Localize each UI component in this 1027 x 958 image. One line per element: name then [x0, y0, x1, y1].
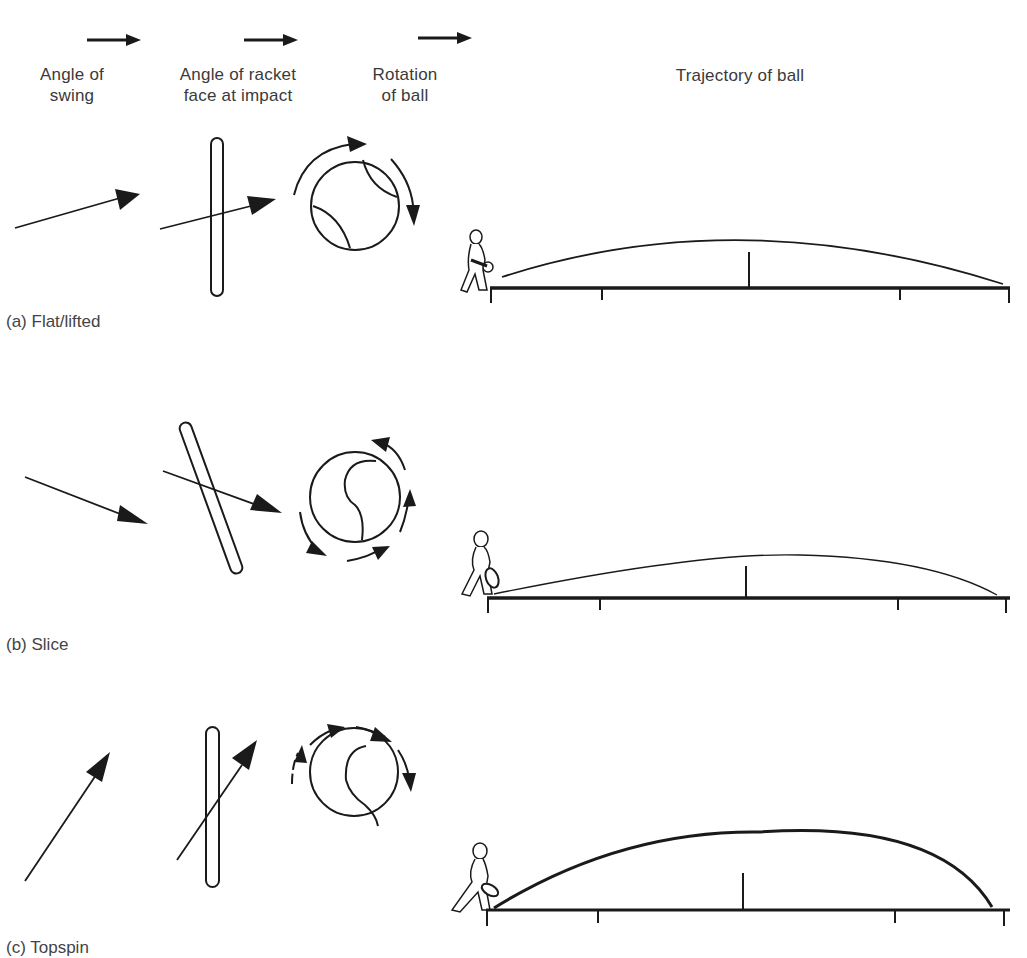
row-b-swing-arrow	[25, 477, 148, 524]
row-a-ball-rotation	[294, 136, 420, 250]
row-a-player-icon	[461, 230, 493, 292]
row-a-trajectory	[502, 240, 1003, 284]
row-b-player-icon	[462, 531, 501, 596]
arrow-right-icon	[244, 34, 298, 46]
row-c-ball-rotation	[292, 724, 416, 826]
arrow-right-icon	[418, 32, 472, 44]
row-b-racket-face	[163, 421, 282, 575]
row-c-player-icon	[452, 843, 500, 912]
row-c-court	[486, 873, 1010, 926]
row-b-court	[487, 566, 1010, 613]
row-b-ball-rotation	[300, 437, 416, 561]
row-a-racket-face	[160, 138, 276, 296]
row-c-racket-face	[177, 727, 257, 887]
arrow-right-icon	[87, 34, 141, 46]
row-c-swing-arrow	[25, 752, 110, 881]
row-a-swing-arrow	[15, 189, 140, 228]
